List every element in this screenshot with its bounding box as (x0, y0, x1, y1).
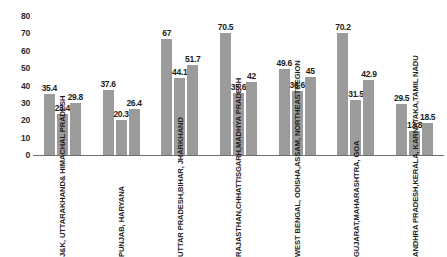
bar-g7-s3[interactable]: 18.5 (422, 123, 433, 155)
bar-value-label: 42.9 (361, 69, 376, 79)
category-label-3: UTTAR PRADESH,BIHAR, JHARKHAND (150, 158, 209, 257)
bar-g5-s3[interactable]: 45 (305, 77, 316, 155)
y-axis-tick-60: 60 (4, 46, 30, 56)
category-label-line: UTTAR PRADESH, (175, 192, 184, 257)
bar-value-label: 42 (247, 71, 256, 81)
bar-value-label: 29.5 (394, 93, 409, 103)
bar-g3-s1[interactable]: 67 (161, 39, 172, 155)
y-axis-tick-80: 80 (4, 11, 30, 21)
bar-g2-s3[interactable]: 26.4 (129, 109, 140, 155)
category-label-line: REGION (293, 60, 302, 89)
category-label-line: TAMIL NADU (410, 55, 419, 101)
category-label-line: GUJARAT, (351, 220, 360, 257)
y-axis-tick-10: 10 (4, 133, 30, 143)
y-axis-tick-30: 30 (4, 98, 30, 108)
bar-chart: 01020304050607080 35.423.429.837.620.326… (0, 0, 447, 257)
bar-g7-s1[interactable]: 29.5 (396, 104, 407, 155)
bar-value-label: 44.1 (172, 67, 187, 77)
bar-value-label: 51.7 (185, 54, 200, 64)
y-axis-tick-40: 40 (4, 81, 30, 91)
category-label-line: MADHYA PRADESH (234, 78, 243, 148)
bar-g1-s3[interactable]: 29.8 (70, 103, 81, 155)
category-labels: J&K, UTTARAKHAND& HIMACHAL PRADESHPUNJAB… (33, 158, 444, 257)
category-label-line: KERALA, KARNATAKA, (410, 101, 419, 185)
bar-g2-s2[interactable]: 20.3 (116, 120, 127, 155)
bar-g6-s3[interactable]: 42.9 (363, 80, 374, 155)
y-axis-tick-70: 70 (4, 28, 30, 38)
bar-g3-s3[interactable]: 51.7 (187, 65, 198, 155)
category-label-1: J&K, UTTARAKHAND& HIMACHAL PRADESH (33, 158, 92, 257)
category-label-line: WEST BENGAL, ODISHA, (293, 167, 302, 257)
bar-g5-s1[interactable]: 49.6 (279, 69, 290, 155)
bar-group-6: 70.231.542.9 (327, 0, 386, 155)
bar-g1-s1[interactable]: 35.4 (44, 94, 55, 156)
category-label-line: CHHATTISGARH, (234, 148, 243, 209)
category-label-line: ASSAM, NORTHEAST (293, 90, 302, 167)
category-label-5: WEST BENGAL, ODISHA,ASSAM, NORTHEASTREGI… (268, 158, 327, 257)
category-label-2: PUNJAB, HARYANA (92, 158, 151, 257)
y-axis-tick-0: 0 (4, 150, 30, 160)
category-label-line: ANDHRA PRADESH, (410, 185, 419, 257)
bar-value-label: 70.5 (218, 22, 233, 32)
bar-value-label: 67 (162, 28, 171, 38)
category-label-line: & HIMACHAL PRADESH (58, 96, 67, 181)
category-label-line: RAJASTHAN, (234, 209, 243, 257)
bar-value-label: 45 (306, 66, 315, 76)
category-label-4: RAJASTHAN,CHHATTISGARH,MADHYA PRADESH (209, 158, 268, 257)
category-label-line: MAHARASHTRA, GOA (351, 141, 360, 221)
bar-value-label: 35.4 (42, 83, 57, 93)
bar-group-2: 37.620.326.4 (92, 0, 151, 155)
bar-value-label: 26.4 (126, 98, 141, 108)
category-label-line: BIHAR, JHARKHAND (175, 117, 184, 192)
bar-value-label: 37.6 (100, 79, 115, 89)
bar-value-label: 49.6 (277, 58, 292, 68)
bar-value-label: 70.2 (335, 22, 350, 32)
bar-g4-s1[interactable]: 70.5 (220, 33, 231, 155)
category-label-7: ANDHRA PRADESH,KERALA, KARNATAKA,TAMIL N… (385, 158, 444, 257)
bar-value-label: 31.5 (348, 89, 363, 99)
bar-value-label: 20.3 (113, 109, 128, 119)
category-label-line: PUNJAB, HARYANA (117, 186, 126, 257)
bar-g4-s3[interactable]: 42 (246, 82, 257, 155)
plot-area: 01020304050607080 35.423.429.837.620.326… (0, 0, 447, 257)
bar-value-label: 18.5 (420, 112, 435, 122)
bar-g2-s1[interactable]: 37.6 (103, 90, 114, 155)
bar-g6-s1[interactable]: 70.2 (337, 33, 348, 155)
y-axis-tick-20: 20 (4, 115, 30, 125)
category-label-6: GUJARAT,MAHARASHTRA, GOA (327, 158, 386, 257)
bar-value-label: 29.8 (68, 92, 83, 102)
category-label-line: J&K, UTTARAKHAND (58, 181, 67, 257)
y-axis-tick-50: 50 (4, 63, 30, 73)
